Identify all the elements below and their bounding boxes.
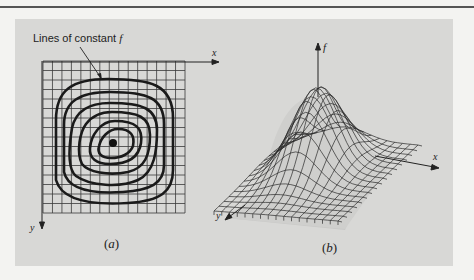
y-axis-arrow-icon xyxy=(40,222,45,229)
x-axis-arrow-icon xyxy=(212,60,219,65)
x-axis-b-arrow-icon xyxy=(431,165,439,171)
caption-b: (b) xyxy=(322,240,337,256)
x-axis-label-a: x xyxy=(212,47,216,58)
maximum-point-marker xyxy=(109,139,117,147)
annotation-variable: f xyxy=(119,32,122,44)
y-axis-label-b: y xyxy=(216,210,220,221)
annotation-text: Lines of constant xyxy=(33,32,116,44)
surface-3d xyxy=(214,87,422,230)
x-axis-label-b: x xyxy=(433,151,437,162)
f-axis-arrow-icon xyxy=(316,43,321,50)
f-axis-label: f xyxy=(323,41,326,53)
y-axis-label-a: y xyxy=(30,222,34,233)
caption-a: (a) xyxy=(104,236,119,252)
contour-annotation: Lines of constant f xyxy=(33,32,122,44)
